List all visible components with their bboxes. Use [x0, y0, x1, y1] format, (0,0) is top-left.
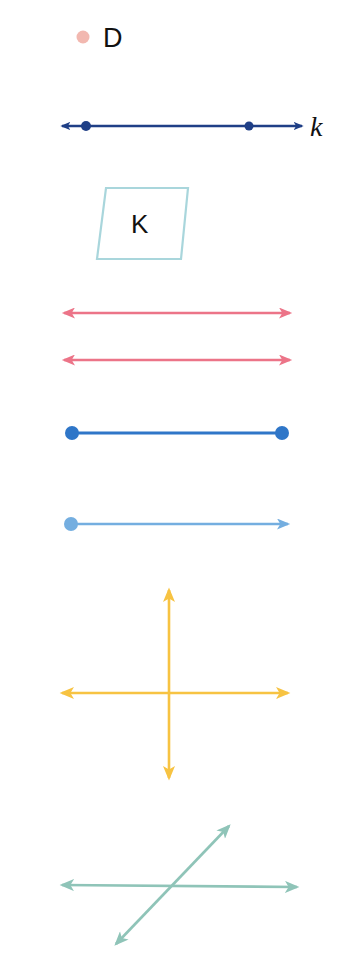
parallel-lines-figure — [64, 313, 290, 360]
line-k-point-right-icon — [245, 122, 254, 131]
ray-figure — [64, 517, 288, 531]
geometry-figures-diagram: D k K — [0, 0, 347, 980]
point-figure: D — [77, 23, 123, 53]
plane-label: K — [131, 209, 149, 239]
line-k-figure: k — [62, 111, 323, 142]
perpendicular-lines-figure — [62, 590, 288, 778]
point-dot-icon — [77, 31, 90, 44]
plane-figure: K — [97, 188, 188, 259]
ray-endpoint-icon — [64, 517, 78, 531]
point-label: D — [103, 23, 123, 53]
line-k-label: k — [310, 111, 323, 142]
intersecting-lines-figure — [62, 826, 297, 944]
intersecting-horizontal-line — [62, 885, 297, 887]
line-k-point-left-icon — [81, 121, 91, 131]
segment-endpoint-right-icon — [275, 426, 289, 440]
segment-endpoint-left-icon — [65, 426, 79, 440]
segment-figure — [65, 426, 289, 440]
